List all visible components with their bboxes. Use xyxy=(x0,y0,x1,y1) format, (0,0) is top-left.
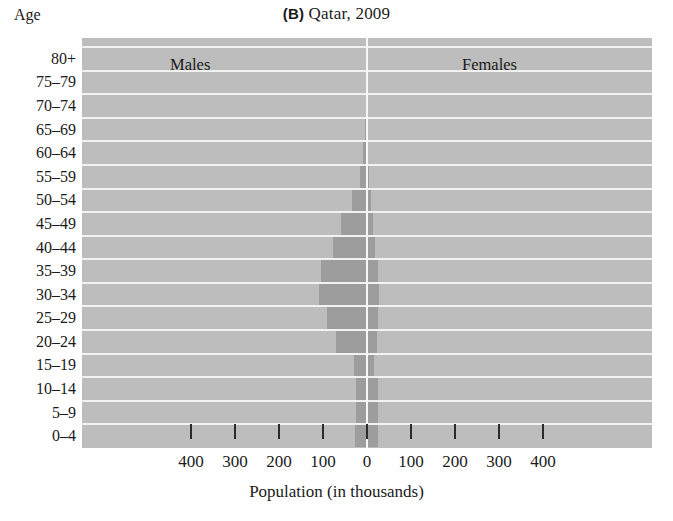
bar-female-30_34 xyxy=(367,284,379,306)
y-axis-label: 10–14 xyxy=(36,381,76,397)
bar-female-25_29 xyxy=(367,307,378,329)
x-axis-tick-label: 400 xyxy=(178,452,204,472)
bar-male-30_34 xyxy=(319,284,367,306)
y-axis-labels: 80+75–7970–7465–6960–6455–5950–5445–4940… xyxy=(0,38,80,448)
bar-male-45_49 xyxy=(341,213,367,235)
x-axis-tick xyxy=(322,424,324,439)
x-axis-title: Population (in thousands) xyxy=(0,482,673,502)
y-axis-label: 30–34 xyxy=(36,287,76,303)
y-axis-label: 15–19 xyxy=(36,357,76,373)
x-axis-tick xyxy=(234,424,236,439)
x-axis-tick xyxy=(366,424,368,439)
x-axis-tick xyxy=(542,424,544,439)
bar-female-20_24 xyxy=(367,331,377,353)
x-axis-tick xyxy=(498,424,500,439)
y-axis-label: 5–9 xyxy=(52,405,76,421)
x-axis-tick-label: 300 xyxy=(222,452,248,472)
y-axis-label: 80+ xyxy=(51,51,76,67)
x-axis-tick-label: 0 xyxy=(363,452,372,472)
series-label-males: Males xyxy=(170,55,210,75)
plot-area xyxy=(82,38,652,448)
y-axis-label: 0–4 xyxy=(52,428,76,444)
chart-title: (B) Qatar, 2009 xyxy=(0,4,673,24)
chart-title-text: Qatar, 2009 xyxy=(308,4,390,23)
y-axis-label: 60–64 xyxy=(36,145,76,161)
bar-male-15_19 xyxy=(354,355,367,377)
bar-female-15_19 xyxy=(367,355,374,377)
y-axis-label: 75–79 xyxy=(36,74,76,90)
x-axis-tick xyxy=(410,424,412,439)
bar-female-35_39 xyxy=(367,260,378,282)
y-axis-label: 45–49 xyxy=(36,216,76,232)
y-axis-label: 40–44 xyxy=(36,240,76,256)
series-label-females: Females xyxy=(462,55,517,75)
x-axis-tick-label: 400 xyxy=(530,452,556,472)
figure-canvas: Age (B) Qatar, 2009 80+75–7970–7465–6960… xyxy=(0,0,673,521)
x-axis-tick xyxy=(454,424,456,439)
x-axis-tick-label: 300 xyxy=(486,452,512,472)
y-axis-label: 55–59 xyxy=(36,169,76,185)
bar-male-35_39 xyxy=(321,260,367,282)
x-axis-tick xyxy=(190,424,192,439)
x-axis-tick-labels: 4003002001000100200300400 xyxy=(0,452,673,476)
x-axis-tick-label: 200 xyxy=(266,452,292,472)
y-axis-label: 70–74 xyxy=(36,98,76,114)
bar-female-10_14 xyxy=(367,378,378,400)
x-axis-ticks xyxy=(82,424,652,448)
y-axis-label: 25–29 xyxy=(36,310,76,326)
x-axis-tick-label: 200 xyxy=(442,452,468,472)
bar-male-20_24 xyxy=(336,331,367,353)
panel-letter: (B) xyxy=(283,5,304,22)
x-axis-tick xyxy=(278,424,280,439)
bar-male-25_29 xyxy=(327,307,367,329)
bar-male-50_54 xyxy=(352,190,367,212)
bar-male-40_44 xyxy=(333,237,367,259)
y-axis-label: 50–54 xyxy=(36,192,76,208)
zero-axis-line xyxy=(366,38,368,448)
x-axis-tick-label: 100 xyxy=(398,452,424,472)
bar-female-40_44 xyxy=(367,237,375,259)
y-axis-label: 65–69 xyxy=(36,122,76,138)
y-axis-label: 35–39 xyxy=(36,263,76,279)
bar-female-5_9 xyxy=(367,402,378,424)
y-axis-label: 20–24 xyxy=(36,334,76,350)
x-axis-tick-label: 100 xyxy=(310,452,336,472)
